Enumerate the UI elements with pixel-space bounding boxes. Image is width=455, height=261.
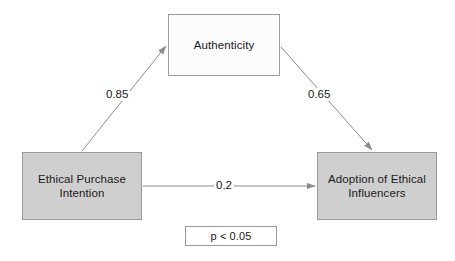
node-authenticity[interactable]: Authenticity [168, 14, 280, 76]
node-authenticity-label: Authenticity [191, 38, 258, 52]
significance-note-box: p < 0.05 [185, 226, 277, 246]
node-ethical-purchase-intention-label: Ethical Purchase Intention [35, 172, 129, 200]
node-ethical-purchase-intention[interactable]: Ethical Purchase Intention [22, 152, 142, 220]
significance-note-label: p < 0.05 [208, 230, 255, 243]
node-adoption-of-ethical-influencers[interactable]: Adoption of Ethical Influencers [317, 152, 437, 220]
node-adoption-of-ethical-influencers-label: Adoption of Ethical Influencers [325, 172, 429, 200]
path-diagram-canvas: Authenticity Ethical Purchase Intention … [0, 0, 455, 261]
edge-label-authenticity-to-adoption: 0.65 [306, 88, 332, 101]
edge-label-epi-to-authenticity: 0.85 [104, 88, 130, 101]
edge-label-epi-to-adoption: 0.2 [214, 179, 234, 192]
